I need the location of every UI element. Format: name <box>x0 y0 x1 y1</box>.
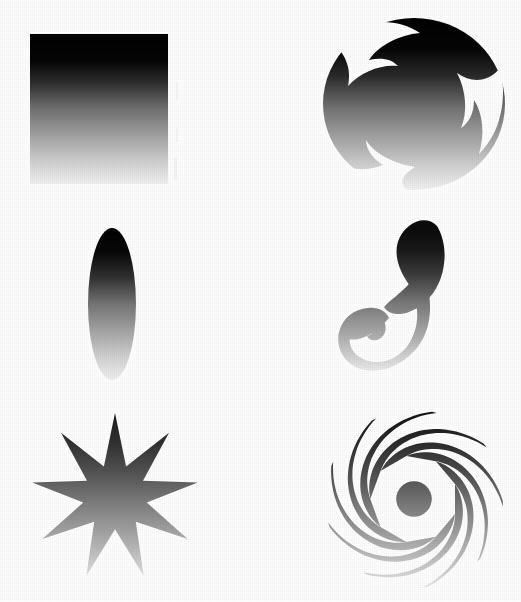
shape-square <box>30 34 168 184</box>
shape-nine-point-star <box>32 413 197 576</box>
shape-ellipse <box>88 228 136 380</box>
spiral-hub <box>396 481 432 517</box>
shape-two-arm-swirl <box>338 220 444 370</box>
shape-nine-arm-spiral <box>328 412 503 588</box>
figure-canvas <box>0 0 521 602</box>
shape-pinwheel-disc <box>310 5 520 205</box>
figure-page <box>0 0 521 602</box>
